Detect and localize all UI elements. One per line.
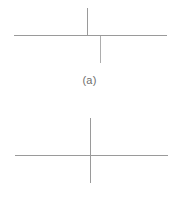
panel-a-caption: (a) bbox=[0, 74, 179, 86]
figure-panel-b: (b) bbox=[0, 104, 179, 207]
panel-a-drawing bbox=[0, 0, 179, 104]
figure-panel-a: (a) bbox=[0, 0, 179, 104]
panel-b-drawing bbox=[0, 104, 179, 207]
figure-root: (a) (b) bbox=[0, 0, 179, 207]
